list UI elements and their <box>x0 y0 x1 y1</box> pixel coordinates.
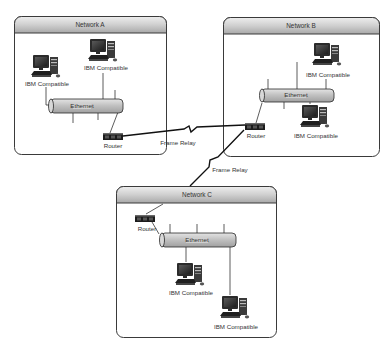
network-c: Network C Ethernet IBM Compatible IBM Co… <box>117 187 277 338</box>
network-b-ethernet-label: Ethernet <box>284 91 308 98</box>
network-c-computer-1-label: IBM Compatible <box>169 289 214 296</box>
network-b-ethernet: Ethernet <box>260 89 335 102</box>
network-b-router-icon <box>245 123 265 130</box>
network-a-title: Network A <box>75 21 105 28</box>
network-c-ethernet-label: Ethernet <box>185 236 209 243</box>
network-a-router-label: Router <box>104 142 123 149</box>
lightning-bolt-icon <box>190 130 244 186</box>
network-c-computer-2-label: IBM Compatible <box>214 323 259 330</box>
network-diagram: Network A Ethernet IBM Compatible IBM Co… <box>0 0 389 360</box>
network-b-computer-1-label: IBM Compatible <box>306 71 351 78</box>
network-b-title: Network B <box>286 22 315 29</box>
network-c-router-icon <box>135 215 155 222</box>
network-c-box <box>117 187 277 338</box>
network-b: Network B Ethernet IBM Compatible IBM Co… <box>224 18 380 157</box>
network-c-title: Network C <box>182 191 212 198</box>
network-b-computer-2-label: IBM Compatible <box>294 132 339 139</box>
network-a-computer-1-label: IBM Compatible <box>25 80 70 87</box>
network-a-router-icon <box>103 133 123 140</box>
frame-relay-label-2: Frame Relay <box>212 166 248 173</box>
frame-relay-label-1: Frame Relay <box>160 139 196 146</box>
network-b-router-label: Router <box>247 132 266 139</box>
network-c-router-label: Router <box>138 225 157 232</box>
network-a-ethernet: Ethernet <box>49 99 124 113</box>
network-c-ethernet: Ethernet <box>160 233 237 247</box>
network-a-computer-2-label: IBM Compatible <box>84 64 129 71</box>
network-a-ethernet-label: Ethernet <box>70 102 94 109</box>
